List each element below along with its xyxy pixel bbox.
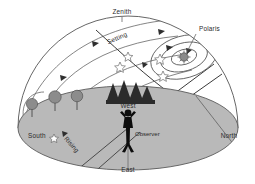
celestial-sphere-diagram: Zenith Polaris Setting Rising South Nort… <box>0 0 255 184</box>
label-north: North <box>221 132 238 139</box>
label-east: East <box>121 166 135 173</box>
label-south: South <box>28 132 46 139</box>
sky-diagram-canvas: Zenith Polaris Setting Rising South Nort… <box>0 0 255 184</box>
label-observer: Observer <box>135 131 160 137</box>
label-polaris: Polaris <box>199 25 220 32</box>
label-west: West <box>120 102 135 109</box>
label-zenith: Zenith <box>113 8 132 15</box>
